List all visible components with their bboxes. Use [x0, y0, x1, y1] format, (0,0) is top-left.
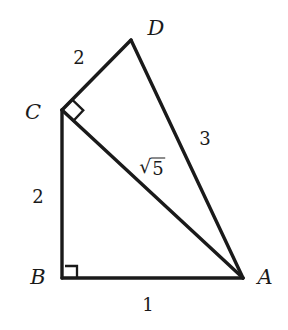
vertex-label-D: D [148, 18, 165, 39]
vertex-label-A: A [257, 267, 272, 288]
vertex-label-C: C [25, 102, 41, 123]
length-label-CD: 2 [73, 49, 84, 67]
length-label-CA: √5 [139, 157, 165, 178]
length-label-BC: 2 [32, 188, 43, 206]
right-angle-B [65, 266, 77, 278]
segment-CA [62, 110, 243, 278]
length-label-DA: 3 [199, 130, 210, 148]
length-label-BA: 1 [142, 296, 153, 314]
radicand-value: 5 [151, 158, 164, 178]
radical-sign-icon: √ [139, 157, 151, 176]
geometry-figure: A B C D 1 2 2 3 √5 [0, 0, 288, 330]
vertex-label-B: B [30, 267, 45, 288]
